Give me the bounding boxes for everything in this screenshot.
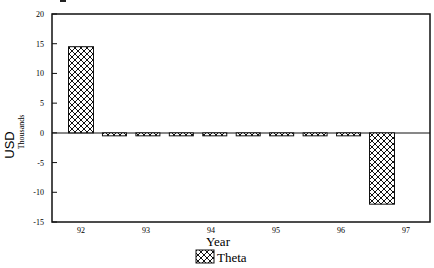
x-tick-label: 95 <box>272 226 280 235</box>
x-tick-label: 93 <box>142 226 150 235</box>
y-tick-label: -10 <box>33 188 44 197</box>
y-tick-label: 15 <box>36 40 44 49</box>
y-tick-label: -5 <box>37 159 44 168</box>
y-tick-label: 5 <box>40 99 44 108</box>
bars <box>69 47 395 204</box>
bar <box>270 133 294 136</box>
bar-chart: 20151050-5-10-15 929394959697 USD Thousa… <box>0 0 434 268</box>
x-tick-label: 92 <box>77 226 85 235</box>
legend-swatch-icon <box>196 250 214 263</box>
y-axis-label: USD <box>2 131 17 158</box>
bar <box>236 133 260 136</box>
legend-label: Theta <box>217 250 247 265</box>
x-axis-label: Year <box>206 234 231 249</box>
x-tick-label: 97 <box>402 226 410 235</box>
bar <box>136 133 160 136</box>
y-tick-label: 0 <box>40 129 44 138</box>
cropped-caption <box>60 0 66 2</box>
bar <box>303 133 327 136</box>
bar <box>102 133 126 136</box>
bar <box>370 133 395 204</box>
y-axis-units: Thousands <box>17 115 26 150</box>
bar <box>169 133 193 136</box>
bar <box>337 133 361 136</box>
bar <box>69 47 94 133</box>
legend: Theta <box>196 250 247 265</box>
y-tick-label: 20 <box>36 10 44 19</box>
x-axis: 929394959697 <box>77 226 410 235</box>
bar <box>203 133 227 136</box>
y-tick-label: 10 <box>36 69 44 78</box>
x-tick-label: 96 <box>337 226 345 235</box>
y-tick-label: -15 <box>33 218 44 227</box>
y-axis: 20151050-5-10-15 <box>33 10 57 227</box>
